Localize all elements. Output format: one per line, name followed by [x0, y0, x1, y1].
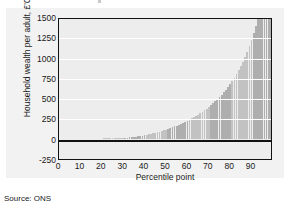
- gridline: [59, 59, 271, 60]
- y-tick-label: 750: [30, 75, 56, 84]
- plot-area: [58, 18, 272, 160]
- x-tick-label: 60: [174, 162, 198, 171]
- y-tick-label: 1000: [30, 55, 56, 64]
- x-tick-label: 80: [217, 162, 241, 171]
- zero-baseline: [59, 140, 271, 142]
- x-tick-label: 40: [132, 162, 156, 171]
- bar-series: [59, 19, 271, 159]
- gridline: [59, 38, 271, 39]
- y-axis-tick-labels: -2500250500750100012501500: [26, 0, 56, 211]
- y-tick-label: 0: [30, 136, 56, 145]
- y-tick-label: 1250: [30, 34, 56, 43]
- y-tick-label: 250: [30, 115, 56, 124]
- x-tick-label: 50: [153, 162, 177, 171]
- gridline: [59, 79, 271, 80]
- figure: Household wealth per adult, £'000 -25002…: [0, 0, 290, 211]
- x-tick-label: 10: [67, 162, 91, 171]
- x-tick-label: 90: [239, 162, 263, 171]
- gridline: [59, 119, 271, 120]
- x-tick-label: 70: [196, 162, 220, 171]
- x-tick-label: 0: [46, 162, 70, 171]
- source-note: Source: ONS: [4, 194, 51, 203]
- y-tick-label: 1500: [30, 14, 56, 23]
- top-artifact: [98, 0, 101, 3]
- x-tick-label: 30: [110, 162, 134, 171]
- x-axis-title: Percentile point: [58, 172, 272, 182]
- y-tick-label: 500: [30, 95, 56, 104]
- gridline: [59, 18, 271, 19]
- gridline: [59, 99, 271, 100]
- x-tick-label: 20: [89, 162, 113, 171]
